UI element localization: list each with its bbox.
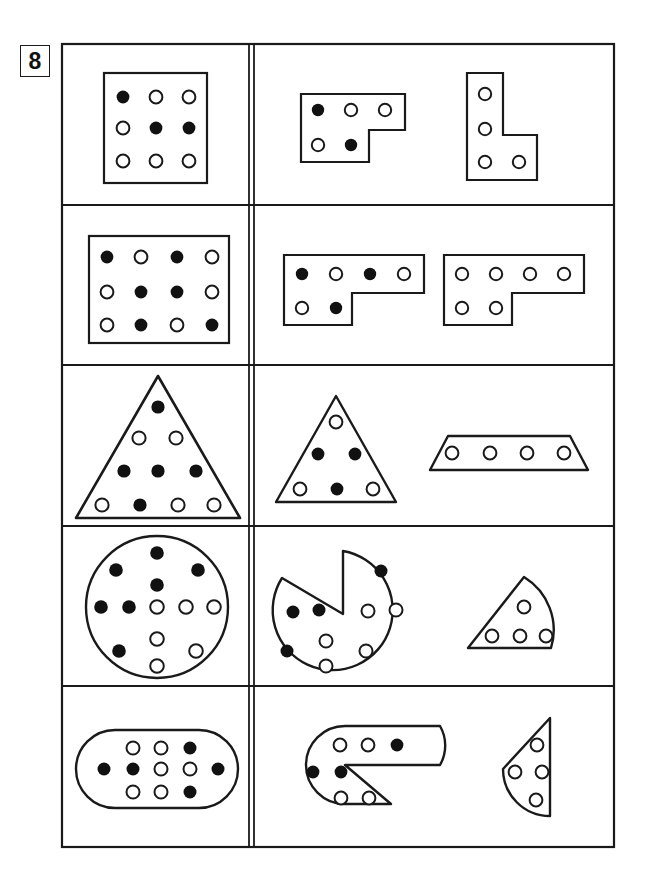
row-2-right-shape-1	[284, 255, 424, 325]
open-dot	[206, 286, 219, 299]
page-number-box: 8	[20, 45, 50, 77]
open-dot	[206, 251, 219, 264]
page-number-label: 8	[29, 50, 42, 73]
filled-dot	[296, 268, 308, 280]
open-dot	[150, 91, 163, 104]
open-dot	[127, 742, 140, 755]
open-dot	[558, 268, 570, 280]
open-dot	[558, 447, 571, 460]
filled-dot	[151, 464, 164, 477]
open-dot	[514, 630, 527, 643]
open-dot	[184, 763, 197, 776]
filled-dot	[109, 563, 123, 577]
filled-dot	[189, 464, 202, 477]
open-dot	[330, 268, 342, 280]
filled-dot	[183, 122, 196, 135]
row-2-left-shape	[89, 236, 229, 343]
open-dot	[95, 498, 108, 511]
open-dot	[521, 447, 534, 460]
open-dot	[171, 498, 184, 511]
row-5-left-shape	[76, 730, 238, 808]
filled-dot	[101, 251, 114, 264]
open-dot	[362, 605, 375, 618]
open-dot	[207, 600, 221, 614]
worksheet-page: 8	[0, 0, 649, 896]
open-dot	[484, 447, 497, 460]
open-dot	[117, 122, 130, 135]
open-dot	[530, 794, 543, 807]
open-dot	[367, 483, 380, 496]
filled-dot	[135, 286, 148, 299]
filled-dot	[117, 91, 130, 104]
open-dot	[536, 766, 549, 779]
filled-dot	[307, 766, 320, 779]
open-dot	[127, 786, 140, 799]
open-dot	[330, 416, 343, 429]
filled-dot	[375, 565, 388, 578]
filled-dot	[150, 546, 164, 560]
filled-dot	[191, 563, 205, 577]
filled-dot	[133, 498, 146, 511]
open-dot	[320, 635, 333, 648]
open-dot	[490, 268, 502, 280]
open-dot	[117, 155, 130, 168]
open-dot	[155, 763, 168, 776]
open-dot	[155, 742, 168, 755]
open-dot	[132, 431, 145, 444]
worksheet-board	[0, 0, 649, 896]
filled-dot	[127, 763, 140, 776]
filled-dot	[112, 644, 126, 658]
open-dot	[531, 739, 544, 752]
filled-dot	[312, 104, 324, 116]
filled-dot	[312, 448, 325, 461]
open-dot	[518, 601, 531, 614]
filled-dot	[330, 302, 342, 314]
open-dot	[150, 155, 163, 168]
filled-dot	[349, 448, 362, 461]
open-dot	[456, 268, 468, 280]
row-2-right-shape-2	[444, 255, 584, 325]
filled-dot	[391, 739, 404, 752]
column-divider	[249, 44, 254, 847]
open-dot	[334, 739, 347, 752]
open-dot	[379, 104, 391, 116]
filled-dot	[345, 139, 357, 151]
open-dot	[363, 792, 376, 805]
open-dot	[479, 88, 491, 100]
filled-dot	[206, 319, 219, 332]
open-dot	[179, 600, 193, 614]
filled-dot	[184, 786, 197, 799]
filled-dot	[94, 600, 108, 614]
open-dot	[312, 139, 324, 151]
open-dot	[456, 302, 468, 314]
filled-dot	[335, 766, 348, 779]
open-dot	[169, 431, 182, 444]
open-dot	[189, 644, 203, 658]
open-dot	[101, 319, 114, 332]
row-4-left-shape	[86, 536, 228, 678]
filled-dot	[150, 578, 164, 592]
filled-dot	[212, 763, 225, 776]
open-dot	[207, 498, 220, 511]
row-4-right-shape-2	[468, 577, 554, 648]
open-dot	[509, 766, 522, 779]
open-dot	[360, 645, 373, 658]
open-dot	[335, 792, 348, 805]
filled-dot	[151, 400, 164, 413]
row-1-right-shape-2	[467, 73, 537, 180]
filled-dot	[150, 122, 163, 135]
open-dot	[345, 104, 357, 116]
filled-dot	[287, 606, 300, 619]
filled-dot	[364, 268, 376, 280]
open-dot	[135, 251, 148, 264]
open-dot	[540, 630, 553, 643]
filled-dot	[171, 286, 184, 299]
open-dot	[479, 123, 491, 135]
open-dot	[183, 155, 196, 168]
row-3-left-shape	[76, 376, 240, 518]
open-dot	[390, 604, 403, 617]
filled-dot	[122, 600, 136, 614]
open-dot	[150, 632, 164, 646]
filled-dot	[171, 251, 184, 264]
open-dot	[296, 302, 308, 314]
